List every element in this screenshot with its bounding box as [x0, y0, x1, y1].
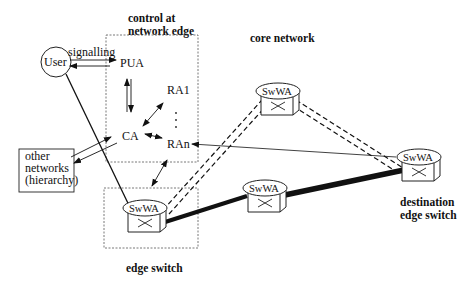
edge-switch-swwa: SwWA [123, 200, 167, 232]
pua-label: PUA [120, 56, 144, 70]
svg-text:edge switch: edge switch [400, 209, 457, 222]
destination-edge-switch-label: destination edge switch [400, 196, 457, 222]
user-to-edge-switch-link [66, 74, 136, 220]
network-architecture-diagram: control at network edge core network edg… [0, 0, 467, 283]
svg-text:SwWA: SwWA [249, 183, 279, 194]
ca-label: CA [122, 129, 139, 143]
svg-text:destination: destination [400, 196, 455, 208]
destination-to-ran-arrow [192, 144, 396, 157]
core-network-label: core network [250, 32, 315, 44]
user-label: User [44, 55, 67, 69]
control-at-network-edge-title: control at network edge [128, 12, 194, 38]
svg-text:SwWA: SwWA [262, 86, 292, 97]
mid-switch-swwa: SwWA [243, 180, 287, 212]
svg-text:network edge: network edge [128, 25, 194, 38]
ellipsis-dots [175, 112, 177, 128]
ra1-label: RA1 [167, 83, 190, 97]
ran-label: RAn [167, 137, 190, 151]
ca-ran-arrow [145, 134, 162, 138]
core-switch-swwa: SwWA [256, 83, 300, 115]
svg-text:(hierarchy): (hierarchy) [25, 173, 78, 187]
signalling-label: signalling [68, 45, 115, 59]
svg-text:control at: control at [128, 12, 176, 24]
ca-ra1-arrow [143, 103, 163, 126]
svg-text:SwWA: SwWA [129, 203, 159, 214]
ran-edge-switch-arrow [152, 160, 167, 186]
edge-switch-label: edge switch [126, 262, 183, 275]
destination-switch-swwa: SwWA [397, 149, 441, 181]
svg-text:SwWA: SwWA [403, 152, 433, 163]
ca-to-other-networks-arrow [74, 143, 117, 163]
